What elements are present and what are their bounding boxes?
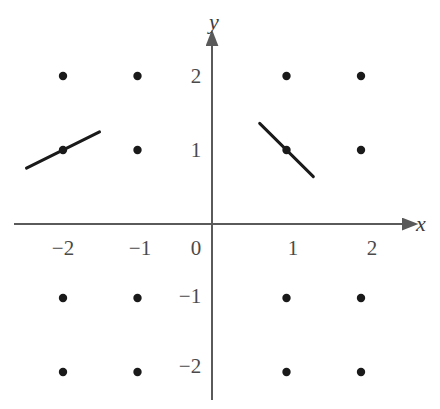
x-tick-label-zero: 0	[191, 238, 202, 259]
slope-field-figure: y x −2 −1 0 1 2 2 1 −1 −2	[0, 0, 440, 409]
coordinate-plane-svg	[0, 0, 440, 409]
y-axis-label: y	[209, 11, 219, 33]
lattice-point	[357, 368, 365, 376]
lattice-point	[133, 368, 141, 376]
y-tick-label-pos2: 2	[191, 66, 202, 87]
slope-segment-group	[26, 123, 313, 176]
x-tick-label-neg1: −1	[129, 238, 151, 259]
x-tick-label-neg2: −2	[52, 238, 74, 259]
y-tick-label-neg2: −2	[179, 356, 201, 377]
lattice-point	[282, 294, 290, 302]
lattice-point	[133, 72, 141, 80]
lattice-point	[282, 72, 290, 80]
lattice-point	[357, 294, 365, 302]
lattice-point	[133, 146, 141, 154]
y-tick-label-neg1: −1	[179, 286, 201, 307]
x-tick-label-pos2: 2	[367, 238, 378, 259]
x-tick-label-pos1: 1	[288, 238, 299, 259]
lattice-point	[133, 294, 141, 302]
lattice-point	[357, 72, 365, 80]
y-tick-label-pos1: 1	[191, 140, 202, 161]
lattice-point	[59, 368, 67, 376]
lattice-point	[357, 146, 365, 154]
axes-group	[14, 44, 404, 400]
lattice-point	[282, 368, 290, 376]
slope-segment-at-(1,1)	[260, 123, 314, 176]
lattice-point	[59, 72, 67, 80]
slope-segment-at-(-2,1)	[26, 132, 99, 168]
x-axis-label: x	[416, 213, 426, 235]
lattice-point	[59, 294, 67, 302]
